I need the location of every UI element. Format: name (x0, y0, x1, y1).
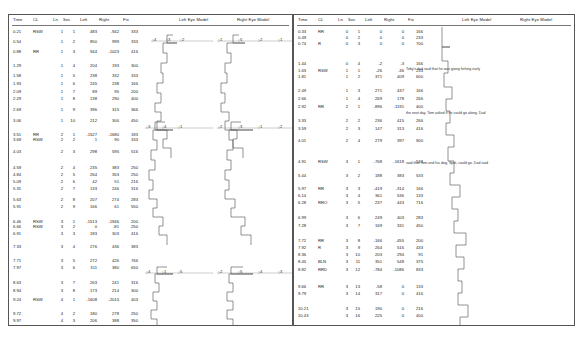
cell-fix: 166 (407, 186, 423, 192)
cell-left: -784 (364, 267, 382, 273)
col-header-left: Left (365, 17, 372, 22)
cell-fix: 133 (407, 193, 423, 199)
cell-sec: 2 (350, 74, 360, 80)
col-header-time: Time (13, 17, 23, 22)
cell-left: 351 (364, 259, 382, 265)
cell-right: 278 (99, 311, 119, 317)
cell-time: 0.74 (298, 41, 306, 47)
cell-time: 0.21 (13, 29, 21, 35)
cell-sec: 9 (65, 107, 75, 113)
cell-sec: 13 (350, 284, 360, 290)
cell-fix: 200 (122, 89, 138, 95)
cell-sec: 4 (65, 244, 75, 250)
cell-sec: 8 (65, 288, 75, 294)
cell-ln: 0 (340, 41, 348, 47)
chart-panel-right: Time CL Ln Sec Left Right Fix Left Eye M… (293, 14, 575, 326)
cell-fix: 416 (122, 231, 138, 237)
cell-time: 4.01 (298, 138, 306, 144)
cell-left: -419 (364, 186, 382, 192)
cell-ln: 2 (55, 179, 63, 185)
cell-sec: 10 (65, 118, 75, 124)
cell-left: 236 (364, 118, 382, 124)
cell-fix: 416 (407, 126, 423, 132)
plot-title-left-eye: Left Eye Model (462, 17, 491, 22)
cell-left: -896 (364, 104, 382, 110)
cell-ln: 1 (55, 39, 63, 45)
cell-right: -2015 (99, 297, 119, 303)
cell-sec: 11 (350, 259, 360, 265)
cell-ln: 3 (340, 306, 348, 312)
cell-sec: 2 (65, 137, 75, 143)
cell-time: 4.91 (298, 159, 306, 165)
cell-sec: 5 (65, 73, 75, 79)
cell-left: 42 (79, 179, 97, 185)
cell-cl: RSW (33, 297, 43, 303)
cell-ln: 3 (55, 265, 63, 271)
cell-ln: 1 (55, 107, 63, 113)
header-divider (297, 25, 571, 26)
cell-time: 1.81 (298, 74, 306, 80)
cell-ln: 3 (340, 159, 348, 165)
cell-sec: 4 (350, 138, 360, 144)
cell-sec: 5 (65, 258, 75, 264)
cell-ln: 3 (340, 223, 348, 229)
cell-right: 303 (99, 231, 119, 237)
cell-time: 10.43 (298, 313, 308, 319)
cell-fix: 350 (122, 318, 138, 324)
cell-time: 7.28 (298, 223, 306, 229)
cell-time: 4.84 (13, 172, 21, 178)
cell-ln: 2 (55, 149, 63, 155)
cell-time: 2.69 (13, 107, 21, 113)
cell-sec: 5 (350, 200, 360, 206)
cell-sec: 4 (350, 96, 360, 102)
cell-left: 190 (364, 306, 382, 312)
cell-fix: 316 (122, 280, 138, 286)
cell-left: 173 (79, 288, 97, 294)
cell-sec: 6 (65, 81, 75, 87)
cell-right: 0 (384, 284, 404, 290)
chart-panel-left: Time CL Ln Sec Left Right Fix Left Eye M… (8, 14, 293, 326)
cell-ln: 3 (340, 245, 348, 251)
cell-left: 188 (364, 173, 382, 179)
cell-ln: 3 (340, 173, 348, 179)
cell-fix: 400 (407, 313, 423, 319)
cell-sec: 2 (65, 311, 75, 317)
cell-left: 271 (364, 88, 382, 94)
cell-time: 7.72 (298, 238, 306, 244)
cell-left: 147 (364, 126, 382, 132)
cell-time: 2.29 (13, 96, 21, 102)
col-header-fix: Fix (123, 17, 129, 22)
cell-cl: RR (318, 104, 324, 110)
cell-fix: 416 (122, 49, 138, 55)
cell-left: 279 (364, 138, 382, 144)
cell-ln: 4 (55, 311, 63, 317)
cell-sec: 7 (65, 186, 75, 192)
cell-fix: 133 (407, 284, 423, 290)
cell-ln: 2 (55, 137, 63, 143)
cell-sec: 2 (65, 39, 75, 45)
col-header-ln: Ln (53, 17, 58, 22)
cell-cl: RRD (318, 267, 327, 273)
cell-right: 294 (384, 252, 404, 258)
cell-fix: 533 (407, 173, 423, 179)
cell-fix: 333 (122, 73, 138, 79)
cell-fix: 400 (122, 96, 138, 102)
cell-right: 383 (384, 173, 404, 179)
cell-sec: 4 (65, 63, 75, 69)
cell-ln: 1 (55, 63, 63, 69)
cell-left: 317 (364, 291, 382, 297)
cell-ln: 3 (340, 313, 348, 319)
col-header-fix: Fix (408, 17, 414, 22)
cell-sec: 10 (350, 252, 360, 258)
cell-right: -455 (384, 238, 404, 244)
cell-cl: RR (318, 186, 324, 192)
cell-time: 1.58 (13, 73, 21, 79)
cell-right: 300 (99, 118, 119, 124)
cell-time: 2.49 (298, 88, 306, 94)
cell-left: 180 (79, 311, 97, 317)
cell-cl: RSW (318, 159, 328, 165)
cell-cl: RSW (33, 224, 43, 230)
cell-time: 1.29 (13, 63, 21, 69)
cell-sec: 2 (65, 224, 75, 230)
col-header-sec: Sec (63, 17, 71, 22)
